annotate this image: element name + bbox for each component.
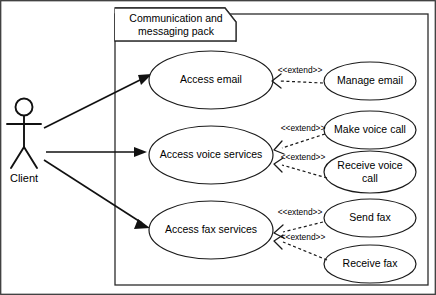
use-case-label: Send fax bbox=[349, 211, 391, 223]
use-case-manage-email[interactable]: Manage email bbox=[324, 62, 416, 100]
actor-leg-left-icon bbox=[11, 147, 24, 168]
use-case-access-voice-services[interactable]: Access voice services bbox=[149, 126, 273, 184]
use-case-label-line1: Receive voice bbox=[337, 159, 403, 171]
use-case-access-fax-services[interactable]: Access fax services bbox=[149, 201, 273, 259]
actor-head-icon bbox=[16, 99, 33, 116]
extend-stereotype-label: <<extend>> bbox=[281, 123, 326, 133]
use-case-label: Access email bbox=[180, 73, 242, 85]
actor-label: Client bbox=[10, 172, 38, 184]
actor-leg-right-icon bbox=[24, 147, 37, 168]
use-case-label: Receive fax bbox=[343, 257, 399, 269]
actor-client[interactable]: Client bbox=[7, 99, 41, 185]
use-case-label: Manage email bbox=[337, 74, 403, 86]
use-case-receive-voice-call[interactable]: Receive voice call bbox=[324, 151, 416, 193]
use-case-label: Access fax services bbox=[165, 223, 257, 235]
package-name-line1: Communication and bbox=[129, 12, 223, 24]
extend-stereotype-label: <<extend>> bbox=[281, 152, 326, 162]
use-case-diagram: Communication and messaging pack Client bbox=[0, 0, 436, 295]
use-case-receive-fax[interactable]: Receive fax bbox=[324, 245, 416, 283]
use-case-send-fax[interactable]: Send fax bbox=[324, 199, 416, 237]
extend-stereotype-label: <<extend>> bbox=[281, 232, 326, 242]
extend-stereotype-label: <<extend>> bbox=[278, 65, 323, 75]
use-case-label-line2: call bbox=[362, 172, 378, 184]
use-case-make-voice-call[interactable]: Make voice call bbox=[324, 111, 416, 149]
use-case-label: Access voice services bbox=[160, 148, 263, 160]
package-name-line2: messaging pack bbox=[138, 25, 215, 37]
diagram-canvas: Communication and messaging pack Client bbox=[0, 0, 436, 295]
extend-stereotype-label: <<extend>> bbox=[278, 207, 323, 217]
use-case-label: Make voice call bbox=[334, 123, 406, 135]
use-case-access-email[interactable]: Access email bbox=[149, 51, 273, 109]
